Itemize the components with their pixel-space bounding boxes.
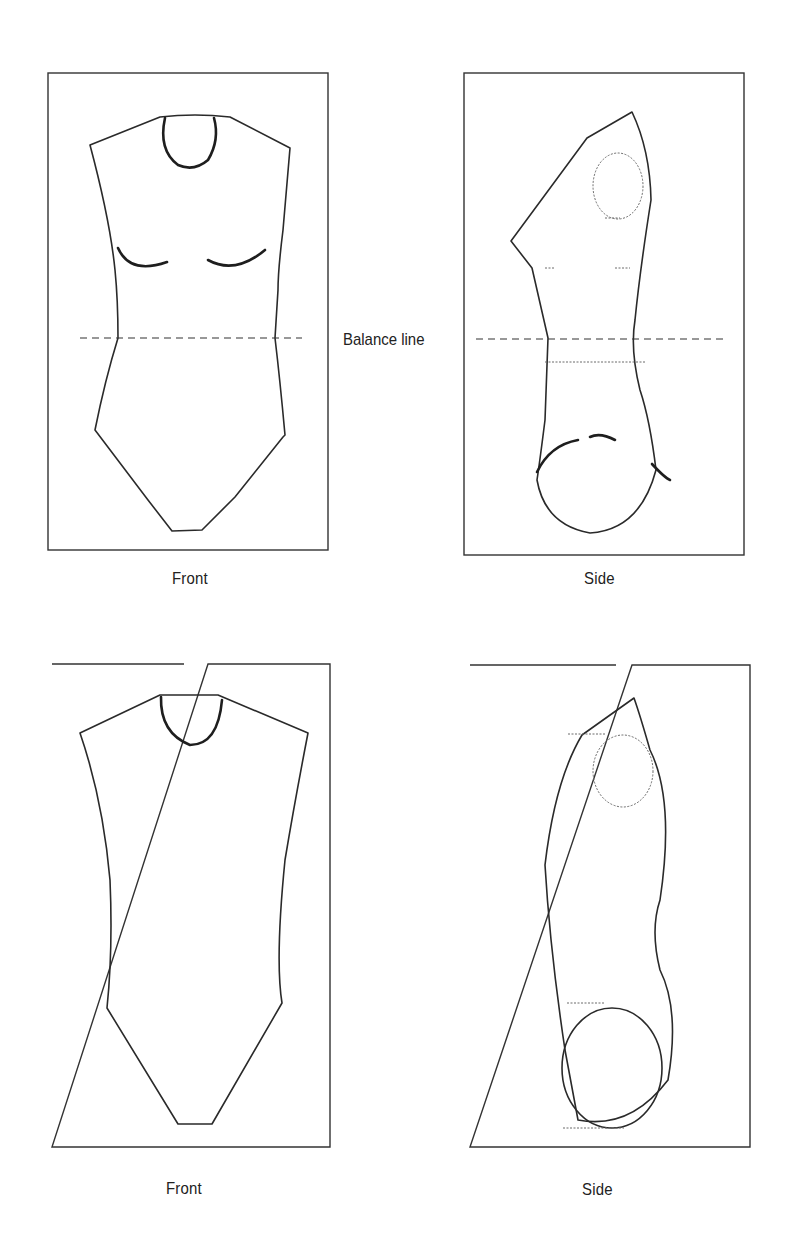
bottom-side-torso-sketch [460, 655, 760, 1155]
top-side-torso-sketch [455, 64, 755, 564]
top-side-caption: Side [584, 569, 615, 589]
top-side-panel [455, 64, 755, 564]
frame [464, 73, 744, 555]
bottom-front-panel [40, 655, 340, 1155]
top-front-torso-sketch [40, 64, 340, 560]
bottom-side-panel [460, 655, 760, 1155]
neckline [161, 697, 222, 745]
side-torso-outline [511, 112, 656, 533]
torso-outline [80, 695, 308, 1124]
bottom-front-torso-sketch [40, 655, 340, 1155]
arm-hole-outline [593, 735, 653, 807]
bottom-front-caption: Front [166, 1179, 202, 1199]
neckline [163, 118, 216, 168]
bust-curve-left [118, 248, 167, 266]
hip-outline [562, 1008, 662, 1128]
side-torso-outline [545, 698, 673, 1122]
top-front-panel [40, 64, 340, 560]
top-front-caption: Front [172, 569, 208, 589]
torso-outline [90, 115, 290, 531]
navel-mark [590, 435, 615, 440]
arm-hole-outline [593, 153, 643, 219]
frame [470, 665, 750, 1147]
balance-line-label: Balance line [343, 330, 425, 350]
bust-curve-right [208, 250, 265, 266]
hip-curve-front [537, 440, 578, 472]
bottom-side-caption: Side [582, 1180, 613, 1200]
frame [52, 664, 330, 1147]
